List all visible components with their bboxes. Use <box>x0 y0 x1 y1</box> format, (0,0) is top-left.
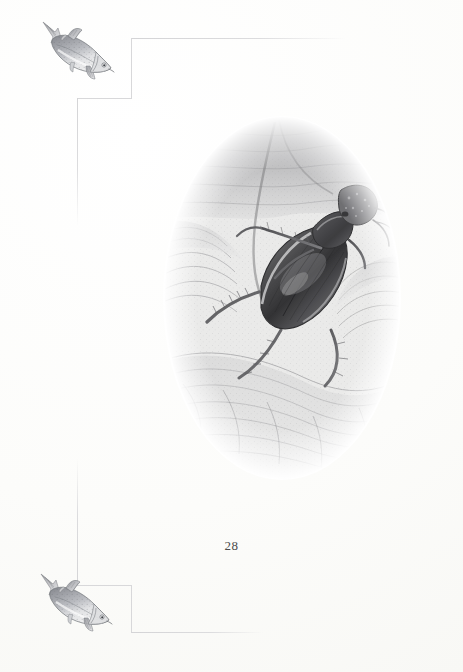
beetle-vignette-illustration <box>163 116 401 480</box>
book-page: 28 <box>0 0 463 672</box>
page-number: 28 <box>0 538 463 554</box>
border-rule-top-step-vertical <box>77 98 78 226</box>
border-rule-top-horizontal <box>131 38 346 39</box>
border-rule-bottom-step-vertical <box>77 458 78 586</box>
border-rule-bottom-vertical <box>131 585 132 633</box>
trout-illustration-bottom <box>36 568 116 644</box>
border-rule-top-step-horizontal <box>77 98 132 99</box>
border-rule-bottom-horizontal <box>131 632 263 633</box>
trout-illustration-top <box>38 16 118 92</box>
border-rule-top-vertical <box>131 38 132 99</box>
